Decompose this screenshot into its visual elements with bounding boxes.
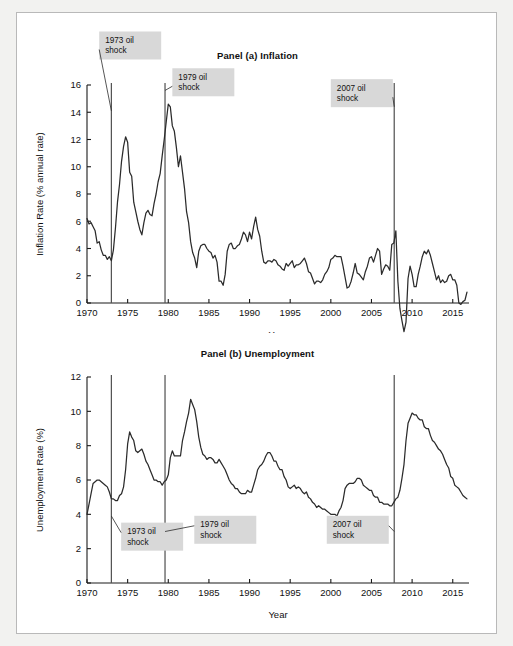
callout-line-1: 1979 oil: [178, 73, 207, 82]
x-tick-label: 2000: [320, 587, 341, 598]
x-tick-label: 1980: [158, 587, 179, 598]
y-tick-label: 12: [70, 371, 81, 382]
x-tick-label: 1995: [280, 587, 301, 598]
x-axis-title: Year: [268, 609, 287, 620]
annotation-2: 2007 oilshock: [327, 516, 394, 544]
callout-line-1: 1973 oil: [105, 36, 134, 45]
callout-leader: [389, 526, 394, 532]
y-tick-label: 12: [70, 134, 81, 145]
y-tick-label: 6: [76, 216, 81, 227]
page-background: Panel (a) Inflation 02468101214161970197…: [0, 0, 513, 646]
callout-line-2: shock: [178, 83, 200, 92]
y-tick-label: 2: [76, 270, 81, 281]
callout-line-1: 1979 oil: [200, 520, 229, 529]
callout-line-2: shock: [127, 538, 149, 547]
y-tick-label: 2: [76, 543, 81, 554]
y-tick-label: 8: [76, 440, 81, 451]
x-tick-label: 1980: [158, 307, 179, 318]
y-tick-label: 10: [70, 406, 81, 417]
callout-leader: [111, 516, 121, 533]
callout-line-1: 1973 oil: [127, 527, 156, 536]
x-tick-label: 1985: [198, 587, 219, 598]
x-tick-label: 1990: [239, 307, 260, 318]
annotation-2: 2007 oilshock: [331, 79, 394, 107]
x-tick-label: 1970: [76, 587, 97, 598]
data-series-line: [87, 399, 467, 516]
y-axis-title: Inflation Rate (% annual rate): [34, 132, 45, 256]
x-tick-label: 2005: [361, 307, 382, 318]
x-tick-label: 1995: [280, 307, 301, 318]
annotation-1: 1979 oilshock: [165, 68, 234, 96]
y-tick-label: 8: [76, 188, 81, 199]
y-tick-label: 10: [70, 161, 81, 172]
y-tick-label: 6: [76, 474, 81, 485]
x-tick-label: 1975: [117, 587, 138, 598]
callout-line-2: shock: [333, 531, 355, 540]
y-tick-label: 4: [76, 243, 81, 254]
panel-unemployment: Panel (b) Unemployment 02468101219701975…: [17, 333, 498, 635]
x-tick-label: 1985: [198, 307, 219, 318]
annotation-0: 1973 oilshock: [99, 31, 161, 110]
x-tick-label: 2015: [442, 307, 463, 318]
x-tick-label: 2015: [442, 587, 463, 598]
callout-leader: [165, 86, 172, 90]
x-tick-label: 1990: [239, 587, 260, 598]
callout-line-1: 2007 oil: [337, 84, 366, 93]
x-tick-label: 2010: [402, 307, 423, 318]
y-axis-title: Unemployment Rate (%): [34, 428, 45, 532]
x-tick-label: 1970: [76, 307, 97, 318]
callout-line-1: 2007 oil: [333, 520, 362, 529]
y-tick-label: 14: [70, 107, 81, 118]
inflation-plot: 0246810121416197019751980198519901995200…: [17, 13, 498, 333]
figure-container: Panel (a) Inflation 02468101214161970197…: [16, 12, 497, 634]
panel-inflation: Panel (a) Inflation 02468101214161970197…: [17, 13, 498, 333]
callout-line-2: shock: [200, 531, 222, 540]
callout-line-2: shock: [337, 94, 359, 103]
y-tick-label: 16: [70, 79, 81, 90]
x-tick-label: 1975: [117, 307, 138, 318]
x-tick-label: 2000: [320, 307, 341, 318]
callout-line-2: shock: [105, 46, 127, 55]
data-series-line: [87, 104, 467, 332]
x-tick-label: 2005: [361, 587, 382, 598]
unemployment-plot: 0246810121970197519801985199019952000200…: [17, 333, 498, 635]
x-tick-label: 2010: [402, 587, 423, 598]
annotation-0: 1973 oilshock: [111, 516, 183, 551]
y-tick-label: 4: [76, 509, 81, 520]
